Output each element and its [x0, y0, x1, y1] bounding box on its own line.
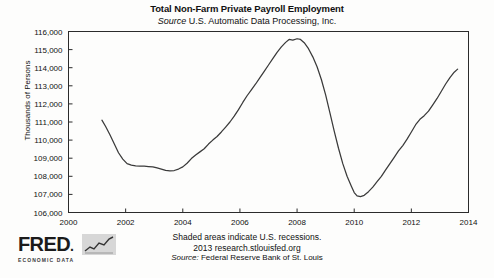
x-tick-label: 2008 — [288, 218, 306, 227]
x-tick-label: 2000 — [60, 218, 78, 227]
axis-tick-marks — [69, 50, 412, 213]
y-tick-label: 107,000 — [34, 190, 63, 199]
y-axis-tick-labels: 106,000107,000108,000109,000110,000111,0… — [34, 28, 63, 218]
x-tick-label: 2004 — [174, 218, 192, 227]
y-tick-label: 110,000 — [34, 136, 63, 145]
y-tick-label: 114,000 — [34, 64, 63, 73]
x-tick-label: 2014 — [460, 218, 478, 227]
y-tick-label: 112,000 — [34, 100, 63, 109]
plot-frame — [69, 32, 469, 213]
footer-recessions-note: Shaded areas indicate U.S. recessions. — [0, 232, 494, 243]
x-tick-label: 2012 — [402, 218, 420, 227]
x-axis-tick-labels: 20002002200420062008201020122014 — [60, 218, 478, 227]
footer-attribution: 2013 research.stlouisfed.org — [0, 243, 494, 254]
chart-footer: Shaded areas indicate U.S. recessions. 2… — [0, 232, 494, 264]
y-tick-label: 113,000 — [34, 82, 63, 91]
y-tick-label: 115,000 — [34, 46, 63, 55]
fred-chart-figure: Total Non-Farm Private Payroll Employmen… — [0, 0, 494, 278]
footer-source-word: Source: — [171, 253, 199, 262]
x-tick-label: 2002 — [117, 218, 135, 227]
y-tick-label: 111,000 — [35, 118, 63, 127]
y-tick-label: 106,000 — [34, 209, 63, 218]
footer-source: Source: Federal Reserve Bank of St. Loui… — [0, 253, 494, 264]
y-tick-label: 116,000 — [34, 28, 63, 37]
data-series-line — [102, 39, 458, 197]
x-tick-label: 2010 — [345, 218, 363, 227]
y-tick-label: 108,000 — [34, 172, 63, 181]
x-tick-label: 2006 — [231, 218, 249, 227]
footer-source-text: Federal Reserve Bank of St. Louis — [199, 253, 323, 262]
y-tick-label: 109,000 — [34, 154, 63, 163]
